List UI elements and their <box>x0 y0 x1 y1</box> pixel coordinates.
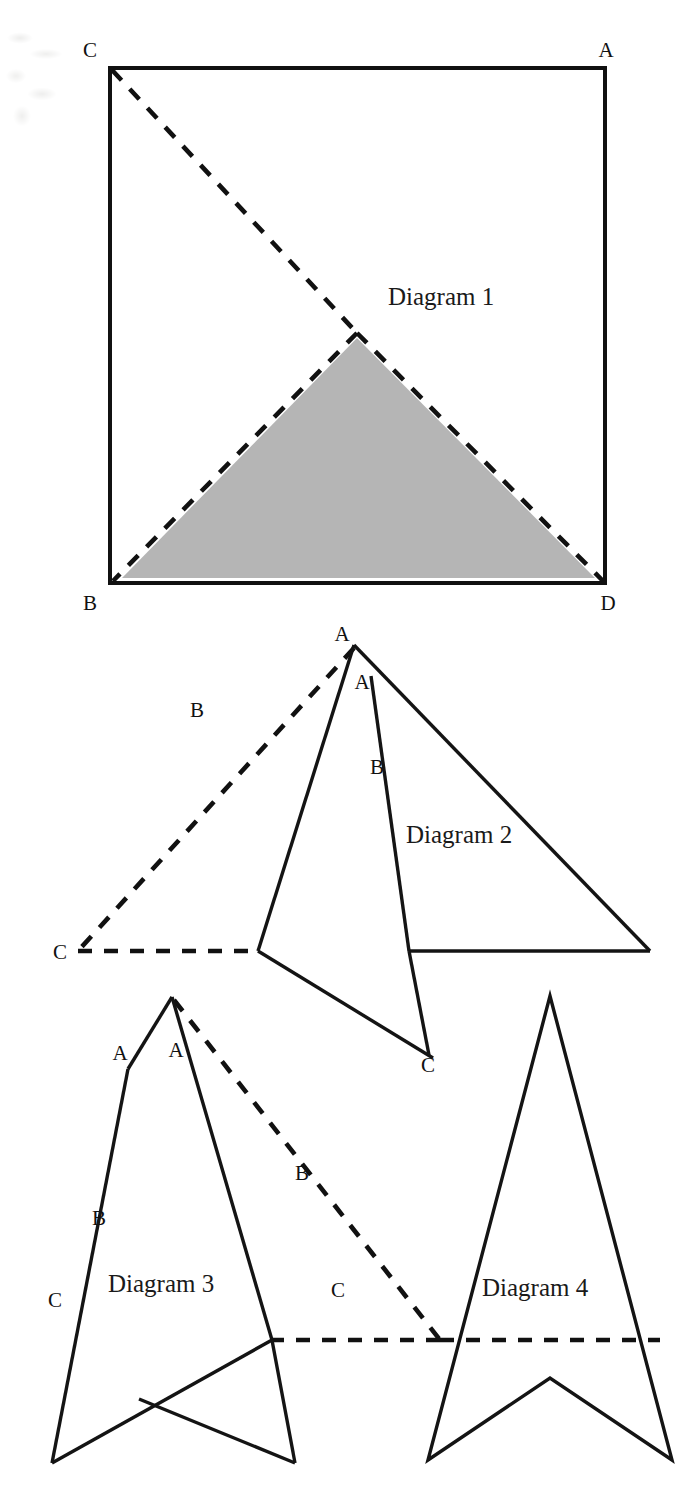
diagram-3-label-a-left: A <box>112 1041 128 1065</box>
diagram-2-label-c-dashed: C <box>53 940 67 964</box>
diagram-2-solid-left-lower <box>258 951 433 1058</box>
diagram-1-shaded-triangle <box>122 338 595 578</box>
diagram-3-label-b-solid: B <box>92 1206 106 1230</box>
diagram-1-caption: Diagram 1 <box>388 283 494 310</box>
diagram-3-label-b-dashed: B <box>295 1161 309 1185</box>
diagram-2-label-a-inner: A <box>354 670 370 694</box>
diagram-2-solid-apex-left <box>258 645 354 951</box>
diagram-1-label-b: B <box>83 591 97 615</box>
diagram-2-caption: Diagram 2 <box>406 821 512 848</box>
diagram-3-solid-right-lower <box>272 1340 295 1463</box>
diagram-2-group: A A B B C C Diagram 2 <box>53 622 650 1077</box>
diagram-2-label-b-dashed: B <box>190 698 204 722</box>
diagram-2-solid-inner-lower <box>409 951 429 1055</box>
diagram-1-label-d: D <box>600 591 615 615</box>
diagram-1-label-a: A <box>598 38 614 62</box>
diagram-3-solid-bottom-right <box>139 1399 295 1463</box>
diagram-3-label-c-dashed: C <box>331 1278 345 1302</box>
diagram-3-label-a-right: A <box>168 1038 184 1062</box>
figure-canvas: C A B D Diagram 1 A A B B C C Diagram 2 <box>0 0 698 1501</box>
diagram-2-label-c-solid: C <box>421 1053 435 1077</box>
diagram-4-caption: Diagram 4 <box>482 1274 589 1301</box>
diagram-2-label-a-outer: A <box>334 622 350 646</box>
diagram-3-label-c-solid: C <box>48 1288 62 1312</box>
diagram-2-solid-apex-right <box>354 645 650 951</box>
diagram-2-solid-inner-left <box>371 676 409 951</box>
diagram-4-arrow-outline <box>428 996 672 1460</box>
diagram-3-solid-apex-left <box>128 997 172 1069</box>
diagram-1-dashed-ca <box>112 70 357 333</box>
diagram-3-solid-bottom-left <box>52 1340 272 1463</box>
diagram-1-group: C A B D Diagram 1 <box>83 38 616 615</box>
diagram-4-group: Diagram 4 <box>428 996 672 1460</box>
diagram-3-group: A A B B C C Diagram 3 <box>48 997 440 1463</box>
diagram-2-dashed-ac <box>78 648 354 951</box>
diagram-3-caption: Diagram 3 <box>108 1270 214 1297</box>
diagram-3-solid-left-edge <box>52 1069 128 1463</box>
geometry-figure-sheet: C A B D Diagram 1 A A B B C C Diagram 2 <box>0 0 698 1501</box>
diagram-1-label-c: C <box>83 38 97 62</box>
diagram-2-label-b-solid: B <box>370 755 384 779</box>
